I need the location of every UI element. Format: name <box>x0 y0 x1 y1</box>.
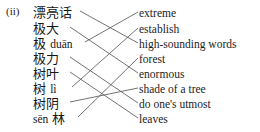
english-definition[interactable]: high-sounding words <box>139 36 236 52</box>
english-definition[interactable]: shade of a tree <box>139 81 206 97</box>
chinese-term[interactable]: 极大 <box>33 21 59 37</box>
english-definition[interactable]: enormous <box>139 66 184 82</box>
chinese-term-column: 漂亮话极大极 duān极力树叶树 lì树阴sēn 林 <box>33 0 95 132</box>
pinyin-text: sēn <box>33 113 48 125</box>
pinyin-text: duān <box>50 38 72 50</box>
chinese-term[interactable]: sēn 林 <box>33 111 65 127</box>
english-definition[interactable]: forest <box>139 51 165 67</box>
chinese-term[interactable]: 极 duān <box>33 36 73 52</box>
chinese-term[interactable]: 树阴 <box>33 96 59 112</box>
chinese-term[interactable]: 极力 <box>33 51 59 67</box>
matching-exercise: (ii) 漂亮话极大极 duān极力树叶树 lì树阴sēn 林 extremee… <box>0 0 260 132</box>
english-definition[interactable]: extreme <box>139 5 176 21</box>
hanzi-text: 树 <box>33 81 50 96</box>
english-definition-column: extremeestablishhigh-sounding wordsfores… <box>139 0 260 132</box>
chinese-term[interactable]: 树叶 <box>33 66 59 82</box>
english-definition[interactable]: establish <box>139 21 179 37</box>
hanzi-text: 极 <box>33 36 50 51</box>
english-definition[interactable]: leaves <box>139 111 168 127</box>
chinese-term[interactable]: 漂亮话 <box>33 5 72 21</box>
exercise-number-label: (ii) <box>6 5 19 17</box>
pinyin-text: lì <box>50 83 56 95</box>
english-definition[interactable]: do one's utmost <box>139 96 211 112</box>
chinese-term[interactable]: 树 lì <box>33 81 57 97</box>
hanzi-text: 林 <box>48 111 65 126</box>
